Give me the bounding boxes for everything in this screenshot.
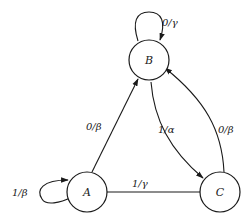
- transition-c-b: 0/β: [165, 68, 234, 172]
- state-c[interactable]: C: [200, 172, 240, 212]
- transition-label-c-a: 1/γ: [132, 178, 148, 189]
- state-label-a: A: [82, 186, 91, 199]
- transition-a-a: 1/β: [12, 180, 72, 203]
- state-diagram: 0/γ 1/β 0/β 1/α 0/β 1/γ B A C: [0, 0, 252, 224]
- transition-label-a-b: 0/β: [86, 121, 102, 132]
- transition-label-a-a: 1/β: [12, 187, 28, 198]
- state-label-c: C: [216, 186, 225, 199]
- transition-label-b-b: 0/γ: [162, 17, 178, 28]
- transition-a-b: 0/β: [86, 79, 138, 172]
- transition-label-b-c: 1/α: [158, 124, 175, 135]
- state-a[interactable]: A: [67, 172, 107, 212]
- transition-label-c-b: 0/β: [218, 124, 234, 135]
- transition-b-b: 0/γ: [135, 12, 177, 41]
- state-label-b: B: [144, 54, 153, 67]
- state-b[interactable]: B: [129, 40, 169, 80]
